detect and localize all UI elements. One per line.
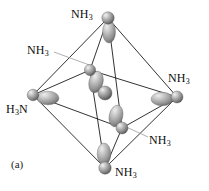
- ligand-left: [27, 89, 59, 105]
- ligand-right: [151, 91, 183, 106]
- ligand-label-upper-left: NH3: [27, 44, 49, 56]
- ligand-label-left: H3N: [6, 103, 28, 115]
- ligand-top: [102, 12, 116, 43]
- ligand-label-right: NH3: [168, 72, 190, 84]
- ligand-front: [107, 104, 128, 134]
- central-metal-atom: [98, 86, 112, 100]
- figure-octahedral-complex: NH3 NH3 H3N NH3 NH3 NH3 (a): [0, 0, 209, 191]
- ligand-label-bottom: NH3: [115, 166, 137, 178]
- ligand-label-lower-right: NH3: [149, 134, 171, 146]
- figure-caption: (a): [11, 158, 23, 170]
- octahedron-diagram: [0, 0, 209, 191]
- ligand-label-top: NH3: [71, 8, 93, 20]
- ligand-bottom: [97, 143, 111, 174]
